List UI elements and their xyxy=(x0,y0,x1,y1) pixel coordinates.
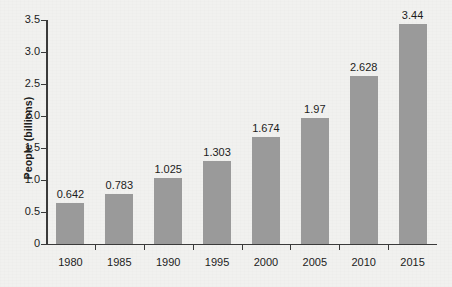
x-axis-tick-mark xyxy=(144,245,145,250)
bar-chart: People (billions) 00.51.01.52.02.53.03.5… xyxy=(0,0,452,287)
x-axis-tick-mark xyxy=(242,245,243,250)
x-axis-tick-mark xyxy=(388,245,389,250)
y-axis-tick-labels: 00.51.01.52.02.53.03.5 xyxy=(14,0,40,287)
bar-group: 0.642 xyxy=(46,20,95,244)
bar-value-label: 1.97 xyxy=(304,103,325,115)
x-axis-tick-label: 2010 xyxy=(337,256,391,268)
y-axis-tick-mark xyxy=(41,20,46,21)
x-axis-tick-mark xyxy=(193,245,194,250)
bar-group: 1.97 xyxy=(290,20,339,244)
y-axis-tick-mark xyxy=(41,148,46,149)
y-axis-tick-mark xyxy=(41,212,46,213)
x-axis-tick-mark xyxy=(95,245,96,250)
y-axis-tick-mark xyxy=(41,52,46,53)
bar xyxy=(399,24,427,244)
y-axis-tick-label: 2.0 xyxy=(14,110,40,121)
bar xyxy=(350,76,378,244)
y-axis-tick-mark xyxy=(41,180,46,181)
bar-value-label: 1.025 xyxy=(154,163,182,175)
bar xyxy=(154,178,182,244)
bar-group: 3.44 xyxy=(388,20,437,244)
plot-area: 0.6420.7831.0251.3031.6741.972.6283.44 xyxy=(46,20,437,244)
bar xyxy=(105,194,133,244)
y-axis-tick-label: 1.5 xyxy=(14,142,40,153)
bar-value-label: 1.303 xyxy=(203,146,231,158)
y-axis-tick-label: 3.0 xyxy=(14,46,40,57)
bar-group: 1.674 xyxy=(242,20,291,244)
x-axis-tick-label: 2005 xyxy=(288,256,342,268)
x-axis-tick-mark xyxy=(290,245,291,250)
y-axis-tick-label: 1.0 xyxy=(14,174,40,185)
bar-group: 0.783 xyxy=(95,20,144,244)
bar xyxy=(56,203,84,244)
bar-group: 1.025 xyxy=(144,20,193,244)
bar-group: 1.303 xyxy=(193,20,242,244)
x-axis-tick-label: 1990 xyxy=(141,256,195,268)
bar-value-label: 1.674 xyxy=(252,122,280,134)
y-axis-tick-label: 0.5 xyxy=(14,206,40,217)
bar xyxy=(252,137,280,244)
y-axis-tick-mark xyxy=(41,116,46,117)
y-axis-tick-mark xyxy=(41,244,46,245)
y-axis-tick-label: 2.5 xyxy=(14,78,40,89)
x-axis-tick-label: 1995 xyxy=(190,256,244,268)
x-axis-tick-mark xyxy=(339,245,340,250)
y-axis-tick-label: 3.5 xyxy=(14,14,40,25)
bar-value-label: 0.642 xyxy=(57,188,85,200)
bar-value-label: 0.783 xyxy=(106,179,134,191)
y-axis-tick-label: 0 xyxy=(14,238,40,249)
bar-group: 2.628 xyxy=(339,20,388,244)
bar xyxy=(203,161,231,244)
bar-value-label: 2.628 xyxy=(350,61,378,73)
x-axis-tick-label: 2015 xyxy=(386,256,440,268)
bar xyxy=(301,118,329,244)
x-axis-tick-label: 1980 xyxy=(43,256,97,268)
x-axis-tick-label: 2000 xyxy=(239,256,293,268)
x-axis-tick-label: 1985 xyxy=(92,256,146,268)
y-axis-tick-mark xyxy=(41,84,46,85)
bar-value-label: 3.44 xyxy=(402,9,423,21)
